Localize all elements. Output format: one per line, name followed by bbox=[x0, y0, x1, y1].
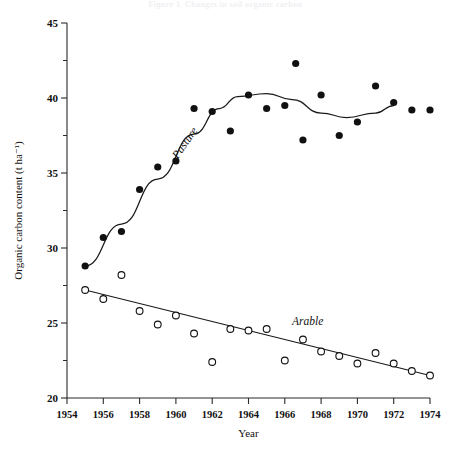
arable-data-point bbox=[191, 330, 198, 337]
arable-data-point bbox=[354, 360, 361, 367]
pasture-data-point bbox=[408, 106, 415, 113]
pasture-series-label: Pasture bbox=[169, 125, 200, 162]
chart-plot-area: 2025303540451954195619581960196219641966… bbox=[0, 0, 451, 452]
x-tick-label: 1960 bbox=[165, 409, 186, 420]
y-tick-label: 20 bbox=[47, 392, 59, 404]
pasture-data-point bbox=[209, 108, 216, 115]
arable-data-point bbox=[118, 272, 125, 279]
arable-data-point bbox=[263, 326, 270, 333]
arable-data-point bbox=[390, 360, 397, 367]
y-tick-label: 40 bbox=[47, 92, 59, 104]
pasture-data-point bbox=[354, 118, 361, 125]
x-tick-label: 1954 bbox=[57, 409, 79, 420]
arable-data-point bbox=[408, 368, 415, 375]
arable-data-point bbox=[154, 321, 161, 328]
arable-fit-line bbox=[85, 290, 430, 376]
x-tick-label: 1968 bbox=[311, 409, 332, 420]
y-tick-label: 30 bbox=[47, 242, 59, 254]
series-annotations-group: Organic carbon content (t ha⁻¹)PastureAr… bbox=[12, 125, 323, 327]
x-tick-label: 1962 bbox=[202, 409, 223, 420]
pasture-data-point bbox=[372, 82, 379, 89]
figure-container: Figure 1. Changes in soil organic carbon… bbox=[0, 0, 451, 452]
data-series-group bbox=[82, 60, 434, 379]
x-tick-label: 1970 bbox=[347, 409, 368, 420]
pasture-data-point bbox=[318, 91, 325, 98]
pasture-data-point bbox=[154, 163, 161, 170]
y-tick-label: 45 bbox=[47, 17, 59, 29]
arable-data-point bbox=[281, 357, 288, 364]
y-axis-title: Organic carbon content (t ha⁻¹) bbox=[12, 141, 25, 280]
x-tick-label: 1956 bbox=[93, 409, 114, 420]
arable-data-point bbox=[227, 326, 234, 333]
pasture-data-point bbox=[190, 105, 197, 112]
x-tick-label: 1958 bbox=[129, 409, 150, 420]
axis-spines bbox=[67, 23, 430, 398]
arable-data-point bbox=[427, 372, 434, 379]
arable-data-point bbox=[300, 336, 307, 343]
pasture-data-point bbox=[281, 102, 288, 109]
pasture-data-point bbox=[292, 60, 299, 67]
arable-data-point bbox=[173, 312, 180, 319]
y-tick-label: 35 bbox=[47, 167, 59, 179]
arable-data-point bbox=[245, 327, 252, 334]
y-tick-label: 25 bbox=[47, 317, 59, 329]
axes-group: 2025303540451954195619581960196219641966… bbox=[47, 17, 441, 439]
arable-data-point bbox=[136, 308, 143, 315]
arable-data-point bbox=[372, 350, 379, 357]
arable-data-point bbox=[82, 287, 89, 294]
pasture-data-point bbox=[390, 99, 397, 106]
pasture-data-point bbox=[245, 91, 252, 98]
pasture-data-point bbox=[426, 106, 433, 113]
x-tick-label: 1972 bbox=[383, 409, 404, 420]
pasture-data-point bbox=[263, 105, 270, 112]
x-tick-label: 1974 bbox=[420, 409, 442, 420]
pasture-data-point bbox=[82, 262, 89, 269]
pasture-fit-curve bbox=[85, 94, 394, 267]
arable-data-point bbox=[209, 359, 216, 366]
arable-data-point bbox=[336, 353, 343, 360]
pasture-data-point bbox=[100, 234, 107, 241]
x-axis-title: Year bbox=[238, 427, 259, 439]
x-tick-label: 1964 bbox=[238, 409, 260, 420]
pasture-data-point bbox=[336, 132, 343, 139]
pasture-data-point bbox=[227, 127, 234, 134]
pasture-data-point bbox=[118, 228, 125, 235]
pasture-data-point bbox=[136, 186, 143, 193]
x-tick-label: 1966 bbox=[274, 409, 295, 420]
arable-series-label: Arable bbox=[291, 315, 323, 327]
arable-data-point bbox=[100, 296, 107, 303]
pasture-data-point bbox=[299, 136, 306, 143]
arable-data-point bbox=[318, 348, 325, 355]
